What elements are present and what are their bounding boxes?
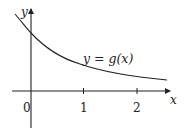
x-axis-label: x (170, 93, 177, 107)
tick-label-1: 1 (80, 101, 88, 115)
tick-label-2: 2 (133, 101, 141, 115)
curve-g (15, 14, 167, 80)
y-axis-label: y (20, 5, 28, 19)
origin-label: 0 (23, 101, 31, 115)
function-graph: y x 0 1 2 y = g(x) (0, 0, 184, 136)
curve-label: y = g(x) (82, 51, 133, 66)
graph-canvas: y x 0 1 2 y = g(x) (0, 0, 184, 136)
